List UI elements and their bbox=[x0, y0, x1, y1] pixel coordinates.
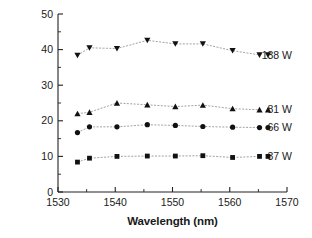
y-tick-label: 30 bbox=[41, 79, 53, 91]
marker-triangle-up bbox=[172, 104, 178, 110]
marker-circle bbox=[230, 125, 235, 130]
series-label-66-w: 66 W bbox=[267, 121, 292, 133]
marker-square bbox=[257, 154, 262, 159]
series-group bbox=[74, 38, 262, 165]
y-tick-label: 0 bbox=[47, 186, 53, 198]
series-138-w bbox=[74, 38, 262, 59]
plot-area: 1530154015501560157001020304050 138 W81 … bbox=[0, 0, 312, 238]
x-tick-label: 1550 bbox=[161, 196, 185, 208]
marker-square bbox=[75, 160, 80, 165]
marker-circle bbox=[145, 122, 150, 127]
marker-triangle-up bbox=[200, 102, 206, 108]
marker-circle bbox=[75, 130, 80, 135]
series-66-w bbox=[75, 122, 262, 135]
marker-square bbox=[173, 154, 178, 159]
y-tick-label: 40 bbox=[41, 43, 53, 55]
axes-group: 1530154015501560157001020304050 bbox=[41, 8, 299, 208]
marker-square bbox=[87, 156, 92, 161]
y-tick-label: 10 bbox=[41, 150, 53, 162]
marker-triangle-down bbox=[74, 53, 80, 59]
marker-triangle-up bbox=[86, 109, 92, 115]
series-label-81-w: 81 W bbox=[267, 103, 292, 115]
x-tick-label: 1540 bbox=[104, 196, 128, 208]
marker-circle bbox=[87, 124, 92, 129]
y-tick-label: 20 bbox=[41, 114, 53, 126]
marker-circle bbox=[114, 124, 119, 129]
series-label-138-w: 138 W bbox=[262, 49, 292, 61]
x-tick-label: 1530 bbox=[46, 196, 70, 208]
series-label-37-w: 37 W bbox=[267, 150, 292, 162]
marker-circle bbox=[200, 124, 205, 129]
marker-square bbox=[145, 154, 150, 159]
marker-circle bbox=[257, 125, 262, 130]
series-81-w bbox=[74, 100, 262, 116]
series-line bbox=[77, 40, 259, 55]
series-37-w bbox=[75, 153, 262, 164]
marker-triangle-up bbox=[114, 100, 120, 106]
marker-square bbox=[230, 155, 235, 160]
y-tick-label: 50 bbox=[41, 8, 53, 20]
marker-triangle-down bbox=[86, 45, 92, 51]
x-tick-label: 1560 bbox=[218, 196, 242, 208]
marker-square bbox=[115, 154, 120, 159]
marker-circle bbox=[173, 123, 178, 128]
chart-figure: Signal power (W) Wavelength (nm) 1530154… bbox=[0, 0, 312, 238]
marker-square bbox=[200, 153, 205, 158]
x-tick-label: 1570 bbox=[275, 196, 299, 208]
marker-triangle-down bbox=[114, 46, 120, 52]
marker-triangle-up bbox=[74, 111, 80, 117]
series-labels-group: 138 W81 W66 W37 W bbox=[262, 49, 292, 162]
